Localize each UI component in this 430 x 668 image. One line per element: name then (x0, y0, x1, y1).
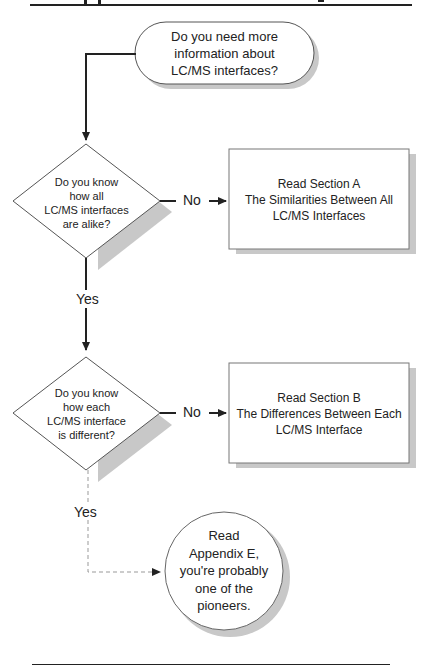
decision1-text: Do you know how all LC/MS interfaces are… (13, 175, 160, 231)
connector-start-to-decision1 (86, 54, 136, 140)
decision2-yes-label: Yes (74, 504, 97, 520)
decision1-yes-label: Yes (76, 291, 99, 307)
decision1-no-label: No (183, 192, 201, 208)
decision2-no-label: No (183, 404, 201, 420)
start-node-text: Do you need more information about LC/MS… (135, 28, 314, 79)
box-b-text: Read Section B The Differences Between E… (229, 390, 409, 438)
end-node-text: Read Appendix E, you're probably one of … (165, 527, 283, 615)
decision2-text: Do you know how each LC/MS interface is … (13, 386, 160, 442)
box-a-text: Read Section A The Similarities Between … (229, 176, 409, 224)
bottom-rule (32, 664, 390, 665)
